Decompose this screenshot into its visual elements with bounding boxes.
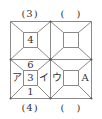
cell-top-right-frame (51, 22, 92, 60)
caption-top-left: (3) (14, 9, 46, 19)
face-bottom-left-bottom: 1 (24, 87, 37, 97)
face-top-left-center: 4 (24, 35, 37, 45)
face-bottom-left-center: 3 (24, 73, 37, 83)
face-bottom-right-right: A (79, 73, 91, 83)
face-bottom-left-left: ア (11, 73, 23, 83)
face-bottom-right-left: ウ (51, 73, 63, 83)
caption-bottom-left: (4) (14, 103, 46, 113)
face-bottom-left-top: 6 (24, 60, 37, 70)
caption-bottom-right: ( ) (54, 103, 88, 113)
face-bottom-left-right: イ (38, 73, 50, 83)
caption-top-right: ( ) (54, 9, 88, 19)
